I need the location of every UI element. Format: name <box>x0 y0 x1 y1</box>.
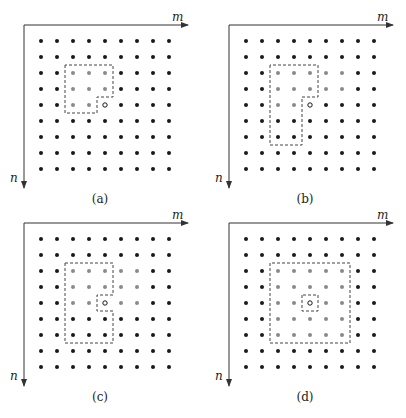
pixel-dot <box>260 135 264 139</box>
neighbor-pixel-dot <box>308 317 312 321</box>
pixel-dot <box>55 151 59 155</box>
pixel-dot <box>260 365 264 369</box>
pixel-dot <box>276 151 280 155</box>
pixel-dot <box>356 103 360 107</box>
pixel-dot <box>39 55 43 59</box>
pixel-dot <box>87 55 91 59</box>
pixel-dot <box>372 167 376 171</box>
pixel-dot <box>244 103 248 107</box>
pixel-dot <box>244 349 248 353</box>
pixel-dot <box>167 333 171 337</box>
pixel-dot <box>324 167 328 171</box>
neighbor-pixel-dot <box>135 269 139 273</box>
pixel-dot <box>356 151 360 155</box>
pixel-dot <box>372 119 376 123</box>
pixel-dot <box>308 119 312 123</box>
pixel-dot <box>119 119 123 123</box>
pixel-dot <box>135 39 139 43</box>
pixel-dot <box>55 269 59 273</box>
pixel-dot <box>340 39 344 43</box>
pixel-dot <box>151 333 155 337</box>
pixel-dot <box>276 135 280 139</box>
pixel-dot <box>103 39 107 43</box>
pixel-dot <box>356 333 360 337</box>
pixel-dot <box>372 285 376 289</box>
pixel-dot <box>71 253 75 257</box>
neighbor-pixel-dot <box>276 285 280 289</box>
neighbor-pixel-dot <box>119 269 123 273</box>
n-axis-label: n <box>10 369 18 383</box>
pixel-dot <box>260 103 264 107</box>
pixel-dot <box>151 55 155 59</box>
pixel-dot <box>372 269 376 273</box>
pixel-dot <box>119 365 123 369</box>
neighbor-pixel-dot <box>103 71 107 75</box>
pixel-dot <box>260 55 264 59</box>
n-axis-label: n <box>10 171 18 185</box>
pixel-dot <box>324 119 328 123</box>
pixel-dot <box>151 71 155 75</box>
pixel-dot <box>103 119 107 123</box>
pixel-dot <box>151 285 155 289</box>
pixel-dot <box>260 167 264 171</box>
pixel-dot <box>308 39 312 43</box>
pixel-dot <box>324 135 328 139</box>
neighbor-pixel-dot <box>324 87 328 91</box>
pixel-dot <box>135 55 139 59</box>
neighbor-pixel-dot <box>292 317 296 321</box>
pixel-dot <box>55 55 59 59</box>
pixel-dot <box>119 39 123 43</box>
pixel-dot <box>167 151 171 155</box>
pixel-dot <box>87 39 91 43</box>
pixel-dot <box>244 167 248 171</box>
pixel-dot <box>356 167 360 171</box>
pixel-dot <box>260 269 264 273</box>
pixel-dot <box>372 333 376 337</box>
pixel-dot <box>135 253 139 257</box>
pixel-dot <box>372 135 376 139</box>
neighbor-pixel-dot <box>308 269 312 273</box>
pixel-dot <box>356 301 360 305</box>
pixel-dot <box>39 167 43 171</box>
pixel-dot <box>39 317 43 321</box>
panel-d: mn(d) <box>215 208 393 404</box>
pixel-dot <box>260 317 264 321</box>
pixel-dot <box>276 119 280 123</box>
neighbor-pixel-dot <box>292 87 296 91</box>
pixel-dot <box>340 151 344 155</box>
pixel-dot <box>340 135 344 139</box>
neighbor-pixel-dot <box>276 333 280 337</box>
pixel-dot <box>39 333 43 337</box>
pixel-dot <box>135 103 139 107</box>
pixel-dot <box>356 55 360 59</box>
pixel-dot <box>135 135 139 139</box>
neighbor-pixel-dot <box>119 285 123 289</box>
pixel-dot <box>55 103 59 107</box>
neighbor-pixel-dot <box>87 285 91 289</box>
pixel-dot <box>55 349 59 353</box>
pixel-dot <box>87 333 91 337</box>
pixel-dot <box>356 317 360 321</box>
pixel-dot <box>308 349 312 353</box>
neighbor-pixel-dot <box>276 87 280 91</box>
pixel-dot <box>292 39 296 43</box>
figure-canvas: mn(a)mn(b)mn(c)mn(d) <box>0 0 406 418</box>
pixel-dot <box>324 349 328 353</box>
pixel-dot <box>260 253 264 257</box>
pixel-dot <box>151 365 155 369</box>
pixel-dot <box>39 39 43 43</box>
neighbor-pixel-dot <box>87 87 91 91</box>
pixel-dot <box>340 349 344 353</box>
pixel-dot <box>55 253 59 257</box>
pixel-dot <box>55 87 59 91</box>
pixel-dot <box>260 71 264 75</box>
panel-caption: (d) <box>296 390 313 404</box>
m-axis-label: m <box>377 208 388 222</box>
neighbor-pixel-dot <box>119 301 123 305</box>
current-pixel-circle <box>103 103 107 107</box>
pixel-dot <box>151 301 155 305</box>
pixel-dot <box>356 253 360 257</box>
pixel-dot <box>71 365 75 369</box>
pixel-dot <box>324 55 328 59</box>
pixel-dot <box>324 253 328 257</box>
